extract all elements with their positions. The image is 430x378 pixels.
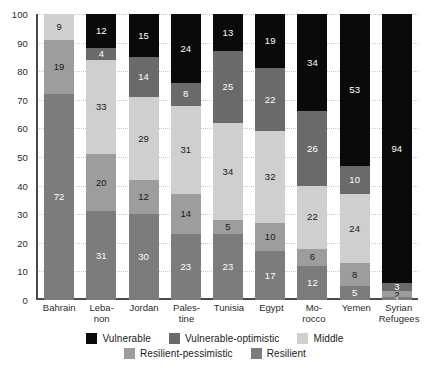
- legend-item[interactable]: Resilient: [251, 348, 306, 359]
- bar-segment[interactable]: 72: [44, 94, 74, 300]
- bar-segment[interactable]: 9: [44, 14, 74, 40]
- bar-segment[interactable]: 30: [129, 214, 159, 300]
- y-axis-tick: 70: [17, 94, 28, 105]
- bar-segment[interactable]: 13: [213, 14, 243, 51]
- bar-column[interactable]: 72199: [44, 14, 74, 300]
- bar-segment-value: 12: [307, 278, 318, 288]
- bar-column[interactable]: 235342513: [213, 14, 243, 300]
- legend-item[interactable]: Middle: [297, 333, 343, 344]
- bar-segment-value: 24: [180, 44, 191, 54]
- bar-segment-value: 10: [349, 175, 360, 185]
- x-axis-label: Leba- non: [82, 303, 122, 324]
- bar-segment[interactable]: 12: [86, 14, 116, 48]
- bar-segment[interactable]: 10: [255, 223, 285, 252]
- x-axis-label: Tunisia: [209, 303, 249, 314]
- bar-segment[interactable]: 4: [86, 48, 116, 59]
- legend-label: Vulnerable-optimistic: [185, 333, 280, 344]
- bar-segment[interactable]: 19: [255, 14, 285, 68]
- bar-segment[interactable]: 24: [171, 14, 201, 83]
- bar-segment[interactable]: 23: [213, 234, 243, 300]
- x-axis-label: Yemen: [336, 303, 376, 314]
- stacked-bar-chart: 0102030405060708090100 72199312033412301…: [0, 0, 430, 378]
- bar-segment[interactable]: 5: [340, 286, 370, 300]
- y-axis-tick: 90: [17, 37, 28, 48]
- legend-item[interactable]: Resilient-pessimistic: [124, 348, 233, 359]
- bar-segment-value: 34: [223, 167, 234, 177]
- legend-item[interactable]: Vulnerable: [86, 333, 150, 344]
- plot-area: 7219931203341230122914152314318242353425…: [36, 14, 418, 300]
- bar-segment[interactable]: 6: [297, 249, 327, 266]
- bar-segment-value: 22: [265, 95, 276, 105]
- legend-row: Resilient-pessimisticResilient: [0, 348, 430, 359]
- bar-segment[interactable]: 8: [171, 83, 201, 106]
- bar-segment-value: 3: [394, 283, 399, 292]
- bar-segment[interactable]: 8: [340, 263, 370, 286]
- bar-segment[interactable]: 23: [171, 234, 201, 300]
- bar-segment[interactable]: 5: [213, 220, 243, 234]
- bar-segment-value: 31: [180, 145, 191, 155]
- bar-segment[interactable]: 19: [44, 40, 74, 94]
- bar-segment[interactable]: 94: [382, 14, 412, 283]
- bar-column[interactable]: 126222634: [297, 14, 327, 300]
- y-axis-tick: 10: [17, 266, 28, 277]
- bar-column[interactable]: 58241053: [340, 14, 370, 300]
- bar-segment[interactable]: 53: [340, 14, 370, 166]
- bar-segment-value: 8: [352, 270, 357, 280]
- legend-item[interactable]: Vulnerable-optimistic: [169, 333, 280, 344]
- bar-column[interactable]: 231431824: [171, 14, 201, 300]
- bar-segment[interactable]: 33: [86, 60, 116, 154]
- bar-segment-value: 12: [138, 192, 149, 202]
- bar-segment[interactable]: 31: [86, 211, 116, 300]
- bar-segment-value: 1: [394, 297, 399, 300]
- bar-segment-value: 19: [265, 36, 276, 46]
- y-axis: 0102030405060708090100: [0, 14, 32, 300]
- legend-label: Resilient-pessimistic: [140, 348, 233, 359]
- bar-segment[interactable]: 34: [213, 123, 243, 220]
- bar-segment[interactable]: 31: [171, 106, 201, 195]
- bar-segment[interactable]: 12: [297, 266, 327, 300]
- bar-segment[interactable]: 34: [297, 14, 327, 111]
- bar-segment[interactable]: 1: [382, 297, 412, 300]
- bar-segment[interactable]: 10: [340, 166, 370, 195]
- bar-segment-value: 4: [99, 49, 104, 59]
- bar-segment[interactable]: 24: [340, 194, 370, 263]
- bar-segment[interactable]: 29: [129, 97, 159, 180]
- y-axis-tick: 20: [17, 237, 28, 248]
- bar-column[interactable]: 12394: [382, 14, 412, 300]
- bar-segment[interactable]: 15: [129, 14, 159, 57]
- bar-segment-value: 5: [352, 288, 357, 298]
- bar-segment[interactable]: 3: [382, 283, 412, 292]
- legend-label: Resilient: [267, 348, 306, 359]
- y-axis-tick: 0: [23, 295, 28, 306]
- y-axis-tick: 50: [17, 152, 28, 163]
- bar-segment-value: 19: [54, 62, 65, 72]
- bar-column[interactable]: 312033412: [86, 14, 116, 300]
- bar-segment[interactable]: 14: [171, 194, 201, 234]
- bar-segment-value: 30: [138, 252, 149, 262]
- y-axis-tick: 60: [17, 123, 28, 134]
- bar-segment[interactable]: 22: [297, 186, 327, 249]
- bar-segment[interactable]: 12: [129, 180, 159, 214]
- bar-segment-value: 53: [349, 85, 360, 95]
- bar-segment[interactable]: 32: [255, 131, 285, 223]
- x-axis-label: Jordan: [124, 303, 164, 314]
- bar-series-group: 7219931203341230122914152314318242353425…: [38, 14, 418, 300]
- bar-segment[interactable]: 14: [129, 57, 159, 97]
- x-axis-label: Syrian Refugees: [379, 303, 419, 324]
- bar-column[interactable]: 3012291415: [129, 14, 159, 300]
- bar-segment[interactable]: 2: [382, 291, 412, 297]
- legend-row: VulnerableVulnerable-optimisticMiddle: [0, 333, 430, 344]
- bar-segment[interactable]: 22: [255, 68, 285, 131]
- bar-segment[interactable]: 26: [297, 111, 327, 185]
- bar-segment-value: 20: [96, 178, 107, 188]
- bar-segment-value: 8: [183, 89, 188, 99]
- bar-segment[interactable]: 17: [255, 251, 285, 300]
- legend-swatch-icon: [297, 333, 308, 344]
- bar-segment-value: 14: [138, 72, 149, 82]
- y-axis-tick: 40: [17, 180, 28, 191]
- bar-segment[interactable]: 20: [86, 154, 116, 211]
- bar-segment-value: 23: [180, 262, 191, 272]
- bar-column[interactable]: 1710322219: [255, 14, 285, 300]
- bar-segment[interactable]: 25: [213, 51, 243, 123]
- legend-label: Middle: [313, 333, 343, 344]
